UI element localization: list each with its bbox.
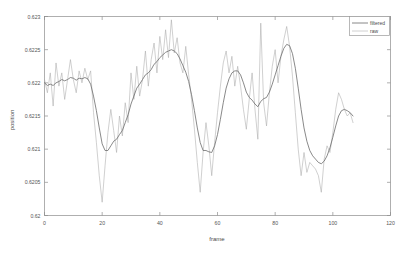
y-tick-label: 0.62 (30, 213, 40, 219)
series-line-filtered (45, 44, 354, 163)
figure-container: 0.620.62050.6210.62150.6220.62250.623 02… (0, 0, 420, 262)
x-axis-title: frame (209, 236, 225, 242)
x-tick-label: 100 (329, 220, 338, 226)
y-axis-title: position (9, 110, 15, 131)
y-tick-label: 0.6215 (25, 113, 41, 119)
line-chart: 0.620.62050.6210.62150.6220.62250.623 02… (0, 0, 420, 262)
x-tick-label: 60 (215, 220, 221, 226)
x-tick-label: 120 (386, 220, 395, 226)
y-tick-label: 0.622 (28, 80, 41, 86)
x-tick-label: 20 (99, 220, 105, 226)
y-tick-labels: 0.620.62050.6210.62150.6220.62250.623 (25, 14, 41, 219)
y-tick-label: 0.6225 (25, 47, 41, 53)
x-tick-labels: 020406080100120 (43, 220, 395, 226)
legend-label-filtered: filtered (370, 20, 385, 26)
x-tick-label: 40 (157, 220, 163, 226)
legend: filtered raw (350, 17, 390, 36)
x-tick-label: 80 (272, 220, 278, 226)
series-line-raw (45, 20, 354, 202)
x-tick-label: 0 (43, 220, 46, 226)
y-tick-label: 0.6205 (25, 179, 41, 185)
y-tick-label: 0.623 (28, 14, 41, 20)
legend-label-raw: raw (370, 28, 378, 34)
y-tick-label: 0.621 (28, 146, 41, 152)
